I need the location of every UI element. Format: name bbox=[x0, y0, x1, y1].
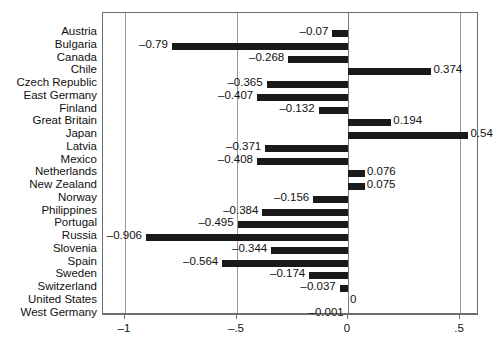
x-tick bbox=[459, 314, 460, 319]
category-label: Great Britain bbox=[0, 114, 97, 127]
x-tick bbox=[124, 314, 125, 319]
category-label: Chile bbox=[0, 63, 97, 76]
bar bbox=[348, 119, 391, 126]
value-label: –0.001 bbox=[0, 306, 344, 319]
bar bbox=[288, 56, 348, 63]
value-label: –0.132 bbox=[0, 102, 315, 115]
bar bbox=[313, 196, 348, 203]
x-tick-label: 0 bbox=[344, 322, 350, 335]
value-label: 0.374 bbox=[433, 63, 462, 76]
x-tick-label: .5 bbox=[454, 322, 464, 335]
bar bbox=[348, 68, 431, 75]
bar bbox=[348, 170, 365, 177]
value-label: –0.174 bbox=[0, 267, 305, 280]
value-label: 0.54 bbox=[470, 127, 492, 140]
value-label: –0.156 bbox=[0, 191, 309, 204]
bar bbox=[319, 107, 348, 114]
value-label: –0.344 bbox=[0, 242, 267, 255]
value-label: –0.495 bbox=[0, 216, 234, 229]
value-label: –0.07 bbox=[0, 25, 328, 38]
value-label: –0.371 bbox=[0, 140, 261, 153]
value-label: –0.268 bbox=[0, 51, 284, 64]
bar bbox=[340, 285, 348, 292]
category-label: Netherlands bbox=[0, 165, 97, 178]
value-label: 0.075 bbox=[367, 178, 396, 191]
value-label: –0.906 bbox=[0, 229, 142, 242]
bar bbox=[262, 209, 348, 216]
bar bbox=[238, 221, 348, 228]
bar bbox=[348, 183, 365, 190]
value-label: –0.407 bbox=[0, 89, 253, 102]
value-label: 0 bbox=[350, 293, 356, 306]
bar bbox=[222, 260, 348, 267]
bar-chart: AustriaBulgariaCanadaChileCzech Republic… bbox=[0, 0, 502, 360]
value-label: –0.564 bbox=[0, 255, 218, 268]
category-label: Japan bbox=[0, 127, 97, 140]
bar bbox=[265, 145, 348, 152]
bar bbox=[309, 272, 348, 279]
bar bbox=[267, 81, 348, 88]
x-tick-label: –1 bbox=[118, 322, 131, 335]
value-label: –0.384 bbox=[0, 204, 258, 217]
bar bbox=[271, 247, 348, 254]
value-label: –0.037 bbox=[0, 280, 336, 293]
value-label: –0.79 bbox=[0, 38, 168, 51]
bar bbox=[257, 158, 348, 165]
bar bbox=[332, 30, 348, 37]
bar bbox=[257, 94, 348, 101]
value-label: 0.194 bbox=[393, 114, 422, 127]
bar bbox=[348, 132, 468, 139]
x-tick-label: –.5 bbox=[228, 322, 244, 335]
bar bbox=[172, 43, 348, 50]
category-label: United States bbox=[0, 293, 97, 306]
value-label: –0.408 bbox=[0, 153, 253, 166]
x-tick bbox=[347, 314, 348, 319]
x-axis bbox=[102, 314, 478, 315]
category-label: New Zealand bbox=[0, 178, 97, 191]
value-label: –0.365 bbox=[0, 76, 263, 89]
bar bbox=[146, 234, 348, 241]
x-tick bbox=[236, 314, 237, 319]
bar-row bbox=[103, 167, 477, 180]
value-label: 0.076 bbox=[367, 165, 396, 178]
